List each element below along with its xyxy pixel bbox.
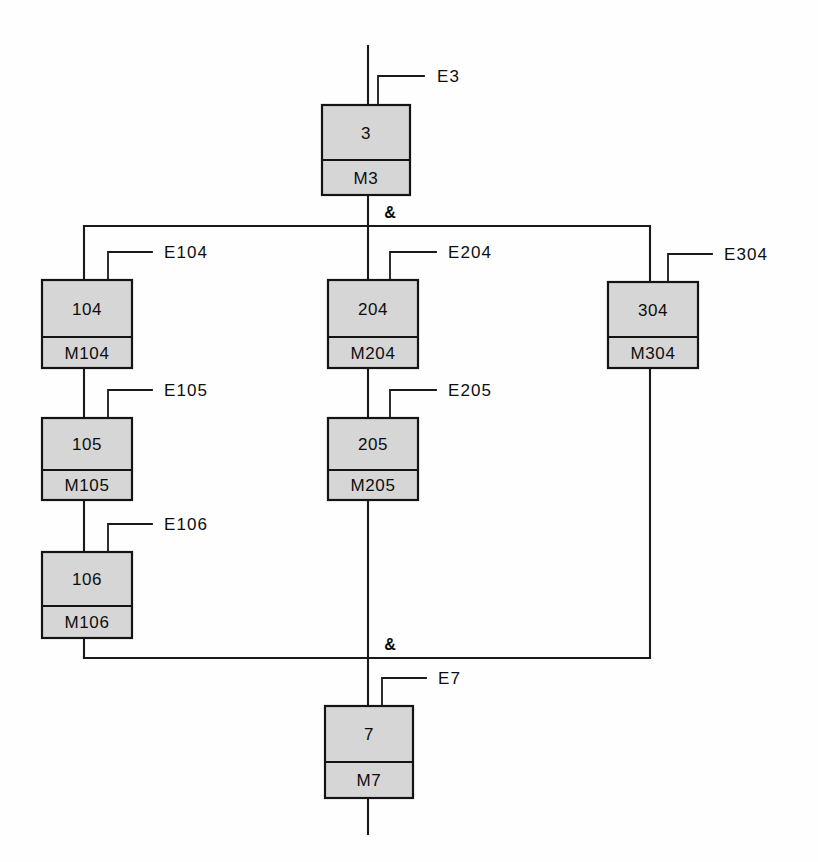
blk-304-bottom-label: M304: [631, 344, 676, 363]
blk-106-bottom-label: M106: [65, 613, 110, 632]
blk-304-signal-stub: [668, 254, 712, 282]
blk-104-signal-stub: [108, 252, 152, 280]
blk-7-bottom-label: M7: [357, 771, 382, 790]
blk-7-signal-stub: [382, 678, 426, 706]
junction-bottom-symbol: &: [384, 636, 396, 653]
blk-304-signal-label: E304: [724, 245, 768, 264]
blk-106-signal-stub: [108, 524, 152, 552]
blk-304-top-label: 304: [638, 301, 668, 320]
blk-105-signal-label: E105: [164, 381, 208, 400]
blk-205-signal-stub: [390, 390, 436, 418]
blk-105-signal-stub: [108, 390, 152, 418]
blk-3-bottom-label: M3: [354, 169, 379, 188]
blk-204-signal-stub: [390, 252, 436, 280]
blk-104-signal-label: E104: [164, 243, 208, 262]
blk-7-signal-label: E7: [438, 669, 461, 688]
junction-top-symbol: &: [384, 204, 396, 221]
blk-106-signal-label: E106: [164, 515, 208, 534]
blk-3-signal-label: E3: [437, 67, 460, 86]
blk-3-top-label: 3: [361, 124, 371, 143]
blk-104-top-label: 104: [72, 300, 102, 319]
blk-204-signal-label: E204: [448, 243, 492, 262]
blk-205-bottom-label: M205: [351, 476, 396, 495]
blk-3-signal-stub: [378, 76, 424, 105]
blk-204-top-label: 204: [358, 300, 388, 319]
blk-7-top-label: 7: [364, 725, 374, 744]
block-diagram: && E33M3E104104M104E105105M105E106106M10…: [0, 0, 818, 862]
diagram-canvas: && E33M3E104104M104E105105M105E106106M10…: [0, 0, 818, 862]
blk-204-bottom-label: M204: [351, 344, 396, 363]
blk-205-top-label: 205: [358, 435, 388, 454]
blk-105-top-label: 105: [72, 435, 102, 454]
blk-105-bottom-label: M105: [65, 476, 110, 495]
blk-104-bottom-label: M104: [65, 344, 110, 363]
blk-106-top-label: 106: [72, 570, 102, 589]
blk-205-signal-label: E205: [448, 381, 492, 400]
